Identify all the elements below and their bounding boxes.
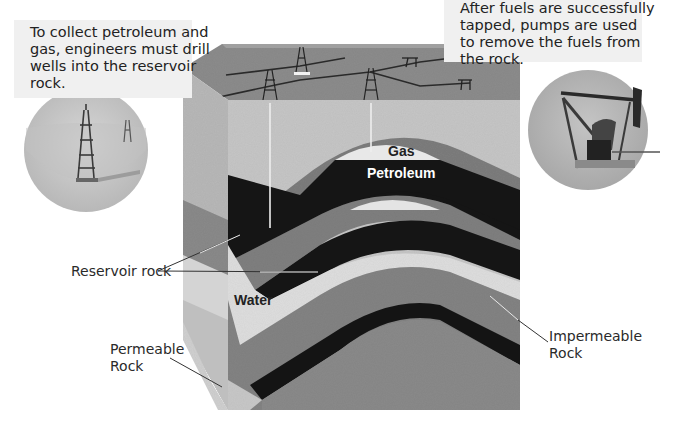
pump-callout-line: to remove the fuels from xyxy=(460,34,632,51)
permeable-rock-label: Permeable Rock xyxy=(110,341,184,375)
cube-front-face xyxy=(228,100,520,410)
pump-jack-inset xyxy=(528,70,660,190)
pump-callout-line: the rock. xyxy=(460,51,632,68)
reservoir-rock-label: Reservoir rock xyxy=(71,263,171,280)
drill-callout-line: rock. xyxy=(30,75,182,92)
pump-callout-line: tapped, pumps are used xyxy=(460,17,632,34)
drill-callout-line: gas, engineers must drill xyxy=(30,41,182,58)
water-label: Water xyxy=(234,292,272,308)
oil-derrick-inset xyxy=(24,88,148,212)
drill-callout: To collect petroleum and gas, engineers … xyxy=(14,20,192,98)
pump-callout-line: After fuels are successfully xyxy=(460,0,632,17)
cube-side-face xyxy=(183,68,228,410)
petroleum-label: Petroleum xyxy=(367,165,435,181)
drill-callout-line: To collect petroleum and xyxy=(30,24,182,41)
gas-label: Gas xyxy=(388,143,414,159)
drill-callout-line: wells into the reservoir xyxy=(30,58,182,75)
pump-callout: After fuels are successfully tapped, pum… xyxy=(444,0,642,62)
impermeable-rock-label: Impermeable Rock xyxy=(549,328,642,362)
